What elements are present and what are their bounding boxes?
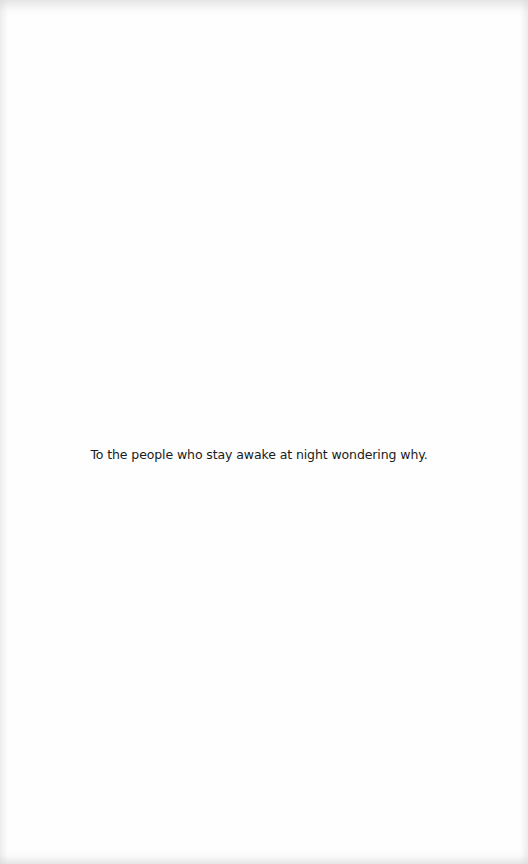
dedication-text: To the people who stay awake at night wo… [0, 446, 518, 464]
scan-edge-top [0, 0, 528, 18]
scan-edge-bottom [0, 850, 528, 864]
scan-edge-right [520, 0, 528, 864]
scan-edge-left [0, 0, 8, 864]
book-page: To the people who stay awake at night wo… [0, 0, 528, 864]
